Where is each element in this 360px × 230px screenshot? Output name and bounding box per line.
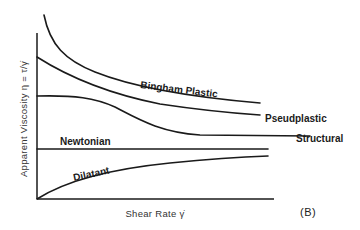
- panel-label: (B): [300, 206, 316, 218]
- bingham-plastic-label: Bingham Plastic: [140, 79, 219, 99]
- dilatant-curve: [37, 156, 268, 199]
- dilatant-label: Dilatant: [72, 164, 111, 183]
- rheology-diagram: Bingham Plastic Pseudplastic Structural …: [0, 0, 360, 230]
- pseudoplastic-label: Pseudplastic: [265, 113, 327, 124]
- y-axis-label: Apparent Viscosity η = τ/γ̇: [18, 60, 29, 177]
- newtonian-label: Newtonian: [60, 136, 111, 147]
- x-axis-label: Shear Rate γ̇: [125, 208, 185, 219]
- structural-label: Structural: [296, 133, 343, 144]
